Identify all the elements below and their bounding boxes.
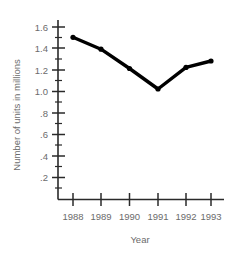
x-tick-label: 1992 — [175, 211, 196, 222]
x-axis-title: Year — [130, 234, 149, 245]
y-tick-label: .4 — [40, 151, 48, 162]
x-tick-label: 1990 — [119, 211, 140, 222]
data-point — [70, 35, 75, 40]
x-tick-label: 1988 — [62, 211, 83, 222]
y-tick-label: 1.4 — [35, 43, 48, 54]
data-point — [127, 66, 132, 71]
y-tick-label: .8 — [40, 108, 48, 119]
y-tick-label: 1.6 — [35, 22, 48, 33]
x-tick-label: 1989 — [90, 211, 111, 222]
line-chart: 1.6 1.4 1.2 1.0 .8 .6 .4 .2 1988 1989 19… — [0, 0, 228, 254]
y-axis-title: Number of units in millions — [11, 59, 22, 171]
data-point — [208, 58, 213, 63]
y-tick-label: .2 — [40, 172, 48, 183]
data-point — [98, 47, 103, 52]
y-tick-label: .6 — [40, 129, 48, 140]
y-tick-label: 1.2 — [35, 65, 48, 76]
chart-figure: 1.6 1.4 1.2 1.0 .8 .6 .4 .2 1988 1989 19… — [0, 0, 228, 254]
x-tick-label: 1993 — [200, 211, 221, 222]
y-tick-label: 1.0 — [35, 86, 48, 97]
x-tick-label: 1991 — [147, 211, 168, 222]
data-point — [155, 86, 160, 91]
data-point — [183, 65, 188, 70]
